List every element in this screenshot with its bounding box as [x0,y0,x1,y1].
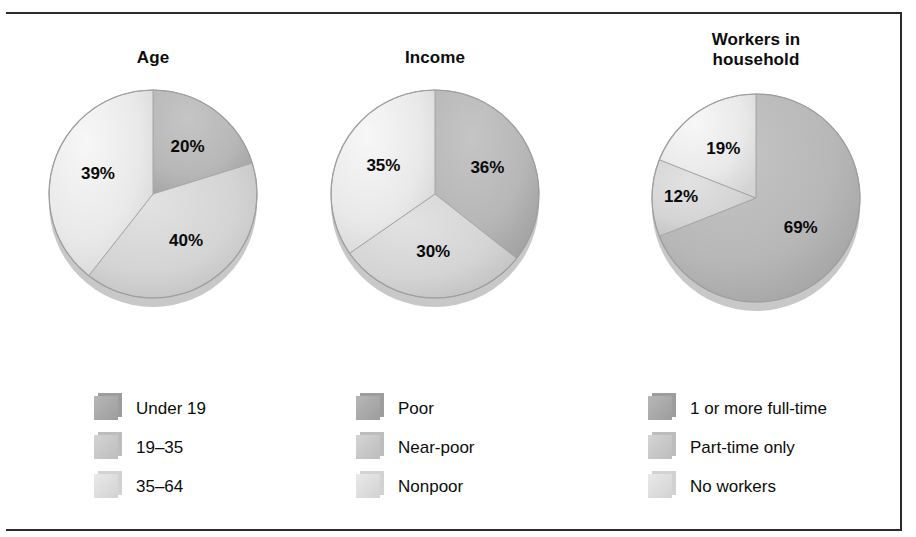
legend-item[interactable]: 35–64 [94,467,206,506]
legend-swatch-icon [648,396,674,422]
pie-slice-label: 30% [416,242,450,261]
chart-title-age: Age [18,48,288,68]
legend-item[interactable]: Under 19 [94,389,206,428]
legend-swatch-icon [356,435,382,461]
legend-item[interactable]: Part-time only [648,428,827,467]
chart-title-workers: Workers in household [610,30,902,70]
legend-item-label: Part-time only [690,438,795,458]
legend-item[interactable]: 1 or more full-time [648,389,827,428]
legend-item-label: 19–35 [136,438,183,458]
legend-item-label: No workers [690,477,776,497]
legend-item-label: 1 or more full-time [690,399,827,419]
pie-slice-label: 19% [706,139,740,158]
pie-slice-label: 40% [169,231,203,250]
legend-item-label: Nonpoor [398,477,463,497]
pie-panel-age: Age 20%40%39% Under 19 19–35 35–64 [18,24,288,514]
pie-chart-workers: 69%12%19% [610,80,902,320]
pie-chart-income: 36%30%35% [300,76,570,316]
pie-slice-label: 20% [171,137,205,156]
legend-item-label: Near-poor [398,438,475,458]
pie-svg-income: 36%30%35% [315,76,555,314]
pie-slice-label: 12% [664,187,698,206]
legend-item[interactable]: Near-poor [356,428,475,467]
pie-panel-income: Income 36%30%35% Poor Near-poor Nonpoor [300,24,570,514]
legend-age: Under 19 19–35 35–64 [94,389,206,506]
legend-swatch-icon [94,396,120,422]
legend-item-label: Poor [398,399,434,419]
bottom-divider-rule [6,529,902,531]
pie-slice-label: 35% [366,156,400,175]
top-divider-rule [6,12,902,14]
legend-income: Poor Near-poor Nonpoor [356,389,475,506]
legend-item[interactable]: No workers [648,467,827,506]
legend-swatch-icon [648,474,674,500]
legend-swatch-icon [94,435,120,461]
legend-item[interactable]: 19–35 [94,428,206,467]
legend-swatch-icon [648,435,674,461]
legend-swatch-icon [356,396,382,422]
legend-workers: 1 or more full-time Part-time only No wo… [648,389,827,506]
legend-swatch-icon [94,474,120,500]
legend-item-label: 35–64 [136,477,183,497]
pie-slice-label: 69% [784,218,818,237]
legend-item[interactable]: Nonpoor [356,467,475,506]
chart-title-income: Income [300,48,570,68]
pie-svg-workers: 69%12%19% [636,80,876,318]
pie-svg-age: 20%40%39% [33,76,273,314]
legend-item-label: Under 19 [136,399,206,419]
pie-chart-age: 20%40%39% [18,76,288,316]
pie-slice-label: 39% [81,164,115,183]
pie-slice-label: 36% [470,158,504,177]
legend-item[interactable]: Poor [356,389,475,428]
pie-panel-workers: Workers in household 69%12%19% 1 or more… [610,24,902,514]
legend-swatch-icon [356,474,382,500]
